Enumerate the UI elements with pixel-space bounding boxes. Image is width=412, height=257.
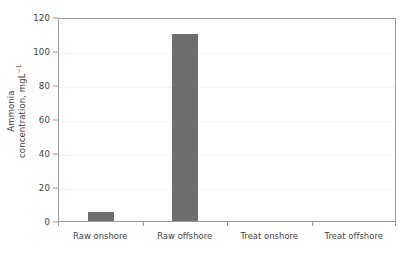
y-axis-tick-mark <box>53 188 58 189</box>
bar-chart-figure: Ammonia concentration, mgL−1 02040608010… <box>0 0 412 257</box>
bar-slot <box>227 19 311 221</box>
y-axis-tick-label: 120 <box>26 13 54 23</box>
y-axis-tick-labels: 020406080100120 <box>26 0 54 257</box>
x-axis-tick-label: Raw offshore <box>143 230 228 248</box>
x-axis-tick-label: Treat onshore <box>227 230 312 248</box>
y-axis-tick-label: 20 <box>26 183 54 193</box>
bar[interactable] <box>88 212 114 221</box>
bar-slot <box>59 19 143 221</box>
y-axis-tick-mark <box>53 222 58 223</box>
y-axis-tick-label: 80 <box>26 81 54 91</box>
x-axis-tick-mark <box>395 222 396 226</box>
plot-area <box>58 18 396 222</box>
x-axis-tick-mark <box>312 222 313 226</box>
y-axis-tick-label: 0 <box>26 217 54 227</box>
x-axis-tick-mark <box>58 222 59 226</box>
y-axis-title-exponent: −1 <box>15 64 22 73</box>
y-axis-title-line1: Ammonia <box>6 64 17 158</box>
x-axis-tick-label: Raw onshore <box>58 230 143 248</box>
y-axis-tick-label: 100 <box>26 47 54 57</box>
bar[interactable] <box>172 34 198 221</box>
x-axis-tick-mark <box>227 222 228 226</box>
y-axis-tick-label: 60 <box>26 115 54 125</box>
y-axis-tick-mark <box>53 18 58 19</box>
x-axis-tick-labels: Raw onshoreRaw offshoreTreat onshoreTrea… <box>58 230 396 248</box>
bar-slot <box>143 19 227 221</box>
bar-slot <box>311 19 395 221</box>
y-axis-tick-label: 40 <box>26 149 54 159</box>
x-axis-tick-marks <box>58 222 396 227</box>
y-axis-tick-mark <box>53 86 58 87</box>
bar-series <box>59 19 395 221</box>
x-axis-tick-label: Treat offshore <box>312 230 397 248</box>
y-axis-tick-mark <box>53 120 58 121</box>
x-axis-tick-mark <box>143 222 144 226</box>
y-axis-tick-mark <box>53 154 58 155</box>
y-axis-tick-mark <box>53 52 58 53</box>
